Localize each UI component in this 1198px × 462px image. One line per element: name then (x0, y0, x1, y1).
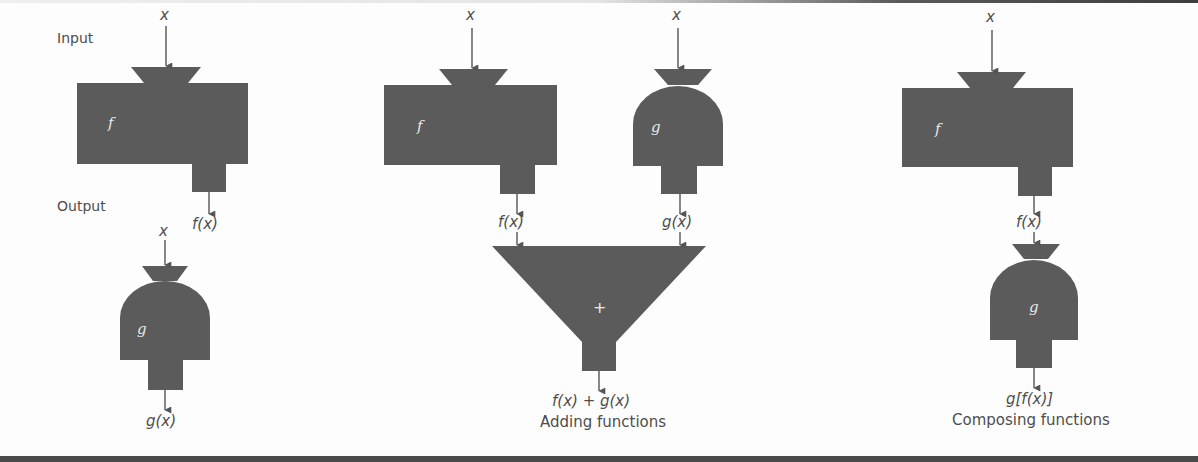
output-label: Output (57, 198, 106, 214)
composing-f-input-x: x (986, 8, 995, 26)
adding-output: f(x) + g(x) (552, 392, 630, 410)
output-spout (1018, 167, 1052, 196)
composing-f-name: f (935, 120, 941, 138)
input-label: Input (57, 30, 93, 46)
input-funnel (131, 67, 201, 83)
machine-f-adding (384, 69, 557, 194)
machine-body (77, 83, 248, 164)
output-spout (582, 341, 616, 371)
machine-body (120, 281, 210, 360)
adding-f-input-x: x (466, 6, 475, 24)
f-output: f(x) (192, 215, 218, 233)
adding-g-name: g (651, 118, 661, 136)
machine-g-basic (120, 266, 210, 390)
adding-caption: Adding functions (540, 413, 666, 431)
input-funnel (654, 69, 712, 85)
machine-body (902, 88, 1073, 167)
adding-g-input-x: x (672, 6, 681, 24)
composing-output: g[f(x)] (1006, 390, 1053, 408)
adding-g-output: g(x) (662, 213, 692, 231)
output-spout (1016, 339, 1052, 368)
input-funnel (439, 69, 508, 85)
machine-g-adding (633, 69, 723, 194)
g-input-x: x (159, 222, 168, 240)
output-spout (661, 165, 697, 194)
composing-f-output: f(x) (1016, 213, 1042, 231)
adder-funnel (492, 246, 706, 342)
output-spout (148, 359, 183, 390)
machine-f-composing (902, 72, 1073, 196)
f-input-x: x (160, 6, 169, 24)
output-spout (192, 164, 226, 192)
machine-body (633, 86, 723, 166)
g-name: g (137, 320, 147, 338)
input-funnel (1012, 244, 1060, 259)
f-name: f (108, 114, 114, 132)
adding-f-name: f (417, 117, 423, 135)
input-funnel (142, 266, 188, 281)
input-funnel (957, 72, 1026, 88)
machine-body (384, 85, 557, 165)
machine-f-basic (77, 67, 248, 192)
adder-plus-sign: + (593, 298, 606, 317)
composing-caption: Composing functions (952, 411, 1110, 429)
composing-g-name: g (1029, 298, 1039, 316)
adding-f-output: f(x) (498, 213, 524, 231)
output-spout (500, 165, 535, 194)
g-output: g(x) (146, 412, 176, 430)
